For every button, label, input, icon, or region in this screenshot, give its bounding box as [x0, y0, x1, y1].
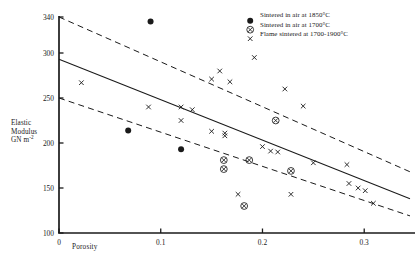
y-axis-tick-label: 100	[32, 229, 54, 238]
axes-layer	[58, 16, 415, 233]
data-point-circled-cross	[241, 203, 248, 210]
data-point-cross	[356, 186, 361, 191]
data-point-filled-circle	[148, 19, 154, 25]
data-point-cross	[217, 69, 222, 74]
data-point-cross	[209, 129, 214, 134]
legend-label: Sintered in air at 1850°C	[260, 11, 330, 18]
y-axis-title-line-1: Elastic	[11, 119, 37, 128]
data-point-filled-circle	[125, 127, 131, 133]
y-axis-tick-label: 340	[32, 13, 54, 22]
x-axis-tick-label: 0.1	[149, 238, 173, 247]
data-point-cross	[289, 192, 294, 197]
legend-label: Flame sintered at 1700-1900°C	[260, 30, 348, 37]
series-cross	[79, 55, 376, 205]
data-point-cross	[252, 55, 257, 60]
data-point-cross	[345, 162, 350, 167]
data-point-cross	[301, 104, 306, 109]
data-point-circled-cross	[220, 166, 227, 173]
data-point-cross	[190, 107, 195, 112]
y-axis-tick-label: 200	[32, 139, 54, 148]
data-point-cross	[179, 118, 184, 123]
x-axis-title: Porosity	[72, 243, 98, 251]
y-axis-tick-label: 150	[32, 184, 54, 193]
data-point-circled-cross	[220, 157, 227, 164]
y-axis-tick-label: 250	[32, 94, 54, 103]
legend-marker-filled-circle-icon	[246, 11, 257, 20]
y-axis-tick-label: 300	[32, 49, 54, 58]
data-point-cross	[275, 150, 280, 155]
data-point-cross	[236, 192, 241, 197]
data-point-cross	[79, 80, 84, 85]
data-point-circled-cross	[272, 117, 279, 124]
data-point-cross	[347, 181, 352, 186]
data-point-filled-circle	[178, 146, 184, 152]
chart-figure: Elastic Modulus GN m-2 Porosity 10015020…	[0, 0, 417, 258]
data-point-cross	[283, 87, 288, 92]
data-point-cross	[248, 37, 253, 42]
trend-line-upper-bound	[59, 17, 410, 172]
legend-label: Sintered in air at 1700°C	[260, 21, 330, 28]
legend-marker-circled-cross-icon	[246, 20, 257, 29]
data-point-cross	[146, 105, 151, 110]
data-point-cross	[363, 188, 368, 193]
data-point-cross	[209, 77, 214, 82]
data-point-cross	[260, 144, 265, 149]
x-axis-tick-label: 0.3	[352, 238, 376, 247]
series-circled-cross	[220, 117, 294, 209]
data-point-cross	[311, 161, 316, 166]
data-point-cross	[268, 149, 273, 154]
legend-marker-cross-icon	[246, 30, 257, 39]
data-point-circled-cross	[246, 157, 253, 164]
trend-line-lower-bound	[59, 98, 410, 216]
data-point-circled-cross	[288, 168, 295, 175]
data-points-layer	[79, 19, 376, 210]
trend-line-regression	[59, 59, 410, 199]
x-axis-tick-label: 0	[47, 238, 71, 247]
x-axis-tick-label: 0.2	[250, 238, 274, 247]
data-point-cross	[228, 80, 233, 85]
scatter-plot-canvas	[0, 0, 417, 258]
data-point-cross	[223, 134, 228, 139]
series-filled-circle	[125, 19, 184, 153]
trend-lines-layer	[59, 17, 410, 216]
